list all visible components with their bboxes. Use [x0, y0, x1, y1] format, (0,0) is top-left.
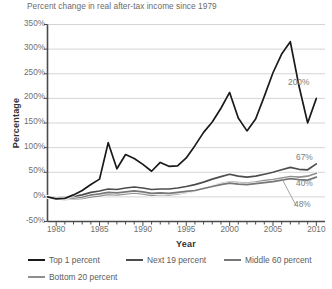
- legend-line-swatch: [224, 259, 241, 261]
- series-end-label: 48%: [294, 199, 311, 209]
- series-end-label: 67%: [296, 152, 313, 162]
- legend-label: Bottom 20 percent: [49, 272, 117, 282]
- series-end-label: 200%: [288, 77, 309, 87]
- legend-line-swatch: [126, 259, 143, 261]
- legend-label: Middle 60 percent: [245, 255, 312, 265]
- legend-item[interactable]: Top 1 percent: [28, 255, 100, 265]
- legend-line-swatch: [28, 259, 45, 261]
- legend-line-swatch: [28, 276, 45, 278]
- legend-label: Next 19 percent: [147, 255, 206, 265]
- chart-legend: Top 1 percentNext 19 percentMiddle 60 pe…: [0, 255, 332, 289]
- series-line: [48, 42, 317, 199]
- legend-item[interactable]: Next 19 percent: [126, 255, 206, 265]
- chart-figure: Percent change in real after-tax income …: [0, 0, 332, 289]
- legend-label: Top 1 percent: [49, 255, 100, 265]
- series-end-label: 40%: [296, 178, 313, 188]
- plot-area: [0, 0, 332, 289]
- legend-item[interactable]: Bottom 20 percent: [28, 272, 117, 282]
- legend-item[interactable]: Middle 60 percent: [224, 255, 312, 265]
